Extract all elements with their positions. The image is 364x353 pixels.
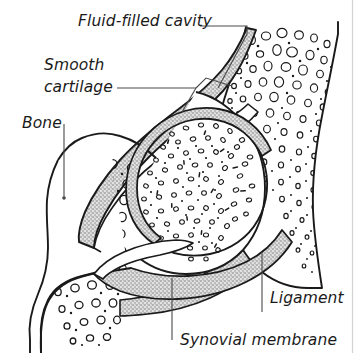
label-fluid-filled-cavity: Fluid-filled cavity (78, 12, 213, 30)
label-synovial-membrane: Synovial membrane (180, 331, 337, 349)
label-smooth-cartilage-line2: cartilage (44, 78, 113, 96)
synovial-joint-diagram: Fluid-filled cavity Smooth cartilage Bon… (0, 0, 364, 353)
label-bone: Bone (22, 114, 62, 132)
anatomy-figure: Fluid-filled cavity Smooth cartilage Bon… (0, 0, 364, 353)
leader-bone-dot (62, 196, 66, 200)
label-ligament: Ligament (270, 289, 344, 307)
label-smooth-cartilage-line1: Smooth (44, 56, 104, 74)
